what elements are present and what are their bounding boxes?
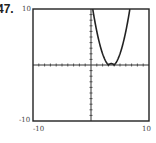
axes	[33, 9, 149, 121]
graph-plot	[0, 0, 156, 143]
function-curve	[93, 9, 130, 65]
